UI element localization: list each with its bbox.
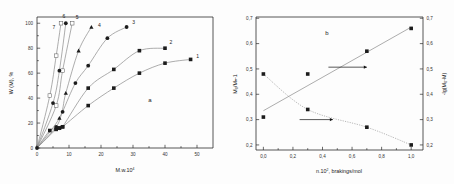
data-point-curve-3 (125, 25, 129, 29)
data-point-curve-1 (112, 86, 116, 90)
curve-label-1: 1 (196, 53, 199, 59)
curve-label-3: 3 (132, 19, 135, 25)
data-point-curve-4 (89, 25, 93, 29)
chart-panel-a: 01020304050 020406080100 1234567 M.w.104… (0, 0, 227, 184)
chart-b-x-ticks: 0,00,20,40,60,81,0 (260, 147, 415, 159)
data-point-rising (365, 49, 369, 53)
data-point-falling (409, 143, 413, 147)
curve-label-5: 5 (76, 14, 79, 20)
chart-a-y-ticks: 020406080100 (25, 21, 40, 151)
x-tick-label: 0,4 (319, 154, 326, 159)
scientific-figure: 01020304050 020406080100 1234567 M.w.104… (0, 0, 454, 184)
data-point-falling (262, 72, 266, 76)
data-point-curve-1 (189, 58, 193, 62)
data-point-falling (365, 125, 369, 129)
data-point-curve-6 (51, 101, 55, 105)
y-right-tick-label: 0,6 (427, 41, 434, 46)
chart-a-x-ticks: 01020304050 (36, 145, 200, 157)
data-point-curve-2 (58, 126, 62, 130)
trend-line-falling (263, 74, 411, 145)
data-point-falling (306, 108, 310, 112)
data-point-curve-6 (64, 21, 68, 25)
curve-label-7: 7 (53, 24, 56, 30)
y-right-tick-label: 0,4 (427, 92, 434, 97)
data-point-curve-5 (54, 104, 58, 108)
x-tick-label: 0 (36, 152, 39, 157)
y-right-tick-label: 0,3 (427, 117, 434, 122)
y-left-tick-label: 0,7 (246, 16, 253, 21)
chart-b-svg: 0,00,20,40,60,81,0 0,20,30,40,50,60,7 0,… (227, 0, 454, 184)
x-tick-label: 1,0 (408, 154, 415, 159)
chart-panel-b: 0,00,20,40,60,81,0 0,20,30,40,50,60,7 0,… (227, 0, 454, 184)
data-point-rising (409, 27, 413, 31)
arrow-right-upper-head (364, 66, 367, 69)
curve-label-4: 4 (98, 22, 101, 28)
svg-text:M₀/Mₙ-1: M₀/Mₙ-1 (232, 74, 238, 94)
chart-a-panel-label: a (148, 97, 152, 103)
data-point-curve-1 (163, 61, 167, 65)
y-tick-label: 80 (28, 46, 34, 51)
data-point-curve-7 (54, 54, 58, 58)
x-tick-label: 0,6 (349, 154, 356, 159)
data-point-curve-3 (106, 36, 110, 40)
data-point-rising (262, 115, 266, 119)
curve-1 (37, 59, 191, 148)
chart-b-y-left-ticks: 0,20,30,40,50,60,7 (246, 16, 259, 148)
x-tick-label: 40 (162, 152, 168, 157)
curve-4 (37, 27, 91, 148)
y-left-tick-label: 0,5 (246, 67, 253, 72)
chart-b-y-right-label: -lg(M₀-M) (441, 73, 447, 96)
data-point-curve-2 (163, 46, 167, 50)
y-left-tick-label: 0,4 (246, 92, 253, 97)
chart-b-x-axis-label: n.102, brakings/mol (316, 168, 362, 174)
data-point-curve-7 (48, 94, 52, 98)
data-point-curve-2 (138, 49, 142, 53)
chart-a-x-axis-label: M.w.104 (116, 167, 135, 173)
y-tick-label: 60 (28, 71, 34, 76)
data-point-curve-1 (138, 71, 142, 75)
data-point-curve-5 (70, 21, 74, 25)
chart-b-y-left-label: M₀/Mₙ-1 (232, 74, 238, 94)
data-point-curve-4 (64, 91, 68, 95)
curve-label-6: 6 (62, 13, 65, 19)
curve-label-2: 2 (170, 39, 173, 45)
data-point-rising (306, 72, 310, 76)
data-point-curve-1 (48, 129, 52, 133)
chart-b-axes (256, 17, 423, 150)
chart-b-trend-lines (263, 27, 411, 145)
data-point-origin (35, 146, 39, 150)
x-tick-label: 0,8 (378, 154, 385, 159)
data-point-curve-3 (61, 110, 65, 114)
data-point-curve-3 (54, 125, 58, 129)
data-point-curve-3 (86, 64, 90, 68)
chart-b-y-right-ticks: 0,20,30,40,50,60,7 (420, 16, 434, 148)
y-tick-label: 40 (28, 96, 34, 101)
svg-text:W (M), %: W (M), % (8, 72, 14, 95)
y-tick-label: 0 (30, 146, 33, 151)
chart-b-panel-label: b (325, 30, 329, 36)
data-point-curve-7 (59, 21, 63, 25)
y-right-tick-label: 0,2 (427, 143, 434, 148)
y-tick-label: 20 (28, 121, 34, 126)
data-point-curve-3 (74, 81, 78, 85)
svg-text:-lg(M₀-M): -lg(M₀-M) (441, 73, 447, 96)
chart-b-arrow-annotations (300, 66, 367, 122)
y-left-tick-label: 0,6 (246, 41, 253, 46)
y-right-tick-label: 0,5 (427, 67, 434, 72)
data-point-curve-2 (112, 68, 116, 72)
x-tick-label: 10 (66, 152, 72, 157)
curve-2 (37, 48, 165, 148)
chart-a-svg: 01020304050 020406080100 1234567 M.w.104… (0, 0, 227, 184)
x-tick-label: 0,0 (260, 154, 267, 159)
data-point-curve-5 (61, 69, 65, 73)
x-tick-label: 30 (130, 152, 136, 157)
chart-b-markers (262, 27, 413, 147)
data-point-curve-6 (58, 69, 62, 73)
x-tick-label: 50 (194, 152, 200, 157)
arrow-right-lower-head (330, 118, 333, 121)
chart-a-y-axis-label: W (M), % (8, 72, 14, 95)
trend-line-rising (263, 27, 411, 111)
chart-a-curve-labels: 1234567 (53, 13, 200, 59)
data-point-curve-1 (86, 104, 90, 108)
y-left-tick-label: 0,3 (246, 117, 253, 122)
